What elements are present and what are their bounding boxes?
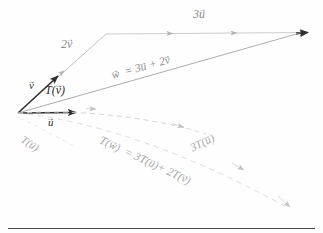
vector-Tu-dashed [18,109,186,128]
bottom-separator-rule [8,228,315,229]
vector-diagram-svg [0,0,323,233]
vector-w-path [18,32,308,113]
vector-3Tu-dashed [172,124,206,134]
vector-2Tv-dashed [20,118,74,146]
vector-Tw-dashed [18,113,290,209]
vector-figure-canvas: 3u→ 2v→ w→ = 3u→ + 2v→ v→ T(v→) u→ T(u→)… [0,0,323,233]
vector-3u-path [106,32,308,34]
